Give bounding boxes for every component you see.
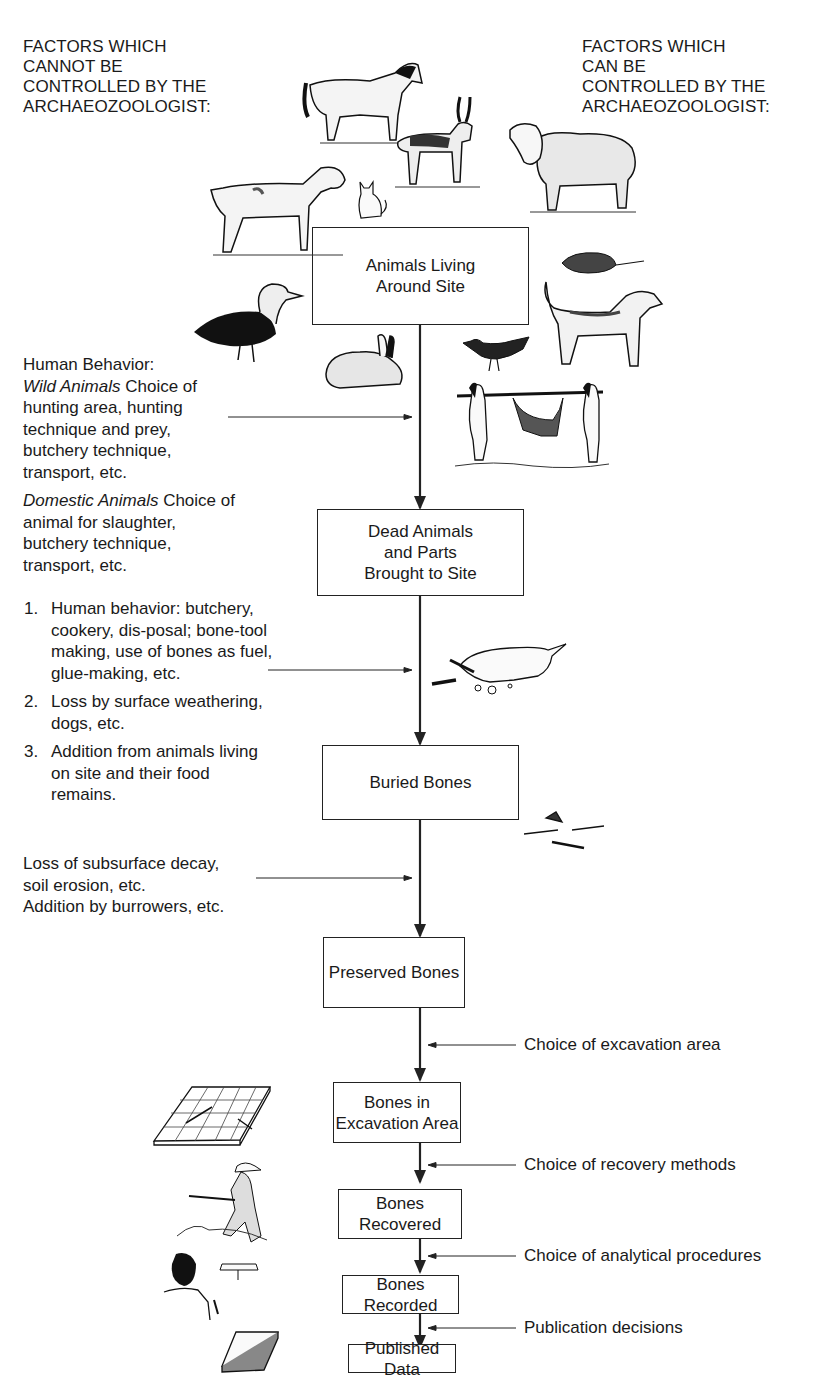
- excavator-kneeling-icon: [175, 1160, 270, 1260]
- burial-line: soil erosion, etc.: [23, 875, 283, 897]
- box-line: Excavation Area: [336, 1113, 459, 1134]
- factor-recovery-methods: Choice of recovery methods: [524, 1155, 736, 1175]
- box-bones-excavation: Bones inExcavation Area: [333, 1082, 461, 1143]
- box-line: Brought to Site: [364, 563, 476, 584]
- list-item: 2.Loss by surface weathering, dogs, etc.: [24, 691, 274, 734]
- duck-icon: [190, 278, 305, 368]
- box-line: Dead Animals: [364, 521, 476, 542]
- box-bones-recovered: Bones Recovered: [338, 1189, 462, 1239]
- scattered-bones-icon: [522, 810, 612, 855]
- domestic-animals-label: Domestic Animals: [23, 491, 158, 510]
- analyst-recording-icon: [162, 1250, 267, 1325]
- rat-icon: [558, 245, 648, 281]
- burial-line: Loss of subsurface decay,: [23, 853, 283, 875]
- list-number: 1.: [24, 598, 51, 684]
- sheep-icon: [500, 118, 645, 218]
- box-line: Around Site: [366, 276, 476, 297]
- box-line: Buried Bones: [369, 772, 471, 793]
- list-text: Addition from animals living on site and…: [51, 741, 274, 806]
- box-line: Published Data: [349, 1338, 455, 1380]
- published-book-icon: [220, 1330, 280, 1375]
- box-published-data: Published Data: [348, 1344, 456, 1373]
- box-bones-recorded: Bones Recorded: [342, 1275, 459, 1314]
- burial-factors: Loss of subsurface decay, soil erosion, …: [23, 853, 283, 918]
- list-number: 2.: [24, 691, 51, 734]
- human-behavior-factors: Human Behavior: Wild Animals Choice of h…: [23, 354, 238, 576]
- box-line: Bones Recovered: [339, 1193, 461, 1235]
- factor-publication-decisions: Publication decisions: [524, 1318, 683, 1338]
- factor-analytical-procedures: Choice of analytical procedures: [524, 1246, 761, 1266]
- box-line: Bones in: [336, 1092, 459, 1113]
- list-item: 1.Human behavior: butchery, cookery, dis…: [24, 598, 274, 684]
- box-line: and Parts: [364, 542, 476, 563]
- bird-icon: [461, 335, 533, 380]
- factor-excavation-area: Choice of excavation area: [524, 1035, 721, 1055]
- box-preserved-bones: Preserved Bones: [323, 937, 465, 1008]
- box-buried-bones: Buried Bones: [322, 745, 519, 820]
- hunters-carrying-prey-icon: [453, 380, 613, 475]
- wild-animals-text: Wild Animals Choice of hunting area, hun…: [23, 376, 238, 484]
- rabbit-icon: [320, 332, 410, 394]
- wild-animals-label: Wild Animals: [23, 377, 120, 396]
- list-item: 3.Addition from animals living on site a…: [24, 741, 274, 806]
- box-dead-animals: Dead Animalsand PartsBrought to Site: [317, 509, 524, 596]
- box-line: Bones Recorded: [343, 1274, 458, 1316]
- dog-gnawing-bones-icon: [430, 640, 570, 700]
- burial-line: Addition by burrowers, etc.: [23, 896, 283, 918]
- site-process-factors: 1.Human behavior: butchery, cookery, dis…: [24, 598, 274, 813]
- box-line: Preserved Bones: [329, 962, 459, 983]
- list-text: Loss by surface weathering, dogs, etc.: [51, 691, 274, 734]
- goat-icon: [203, 160, 348, 260]
- list-number: 3.: [24, 741, 51, 806]
- excavation-grid-icon: [152, 1085, 272, 1147]
- antelope-icon: [390, 92, 485, 190]
- cat-icon: [355, 178, 390, 223]
- list-text: Human behavior: butchery, cookery, dis-p…: [51, 598, 274, 684]
- domestic-animals-text: Domestic Animals Choice of animal for sl…: [23, 490, 238, 576]
- box-line: Animals Living: [366, 255, 476, 276]
- dog-icon: [540, 278, 665, 373]
